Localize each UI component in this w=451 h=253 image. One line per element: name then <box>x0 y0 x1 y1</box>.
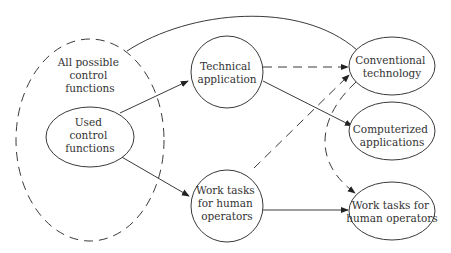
technical-application-label: Technical application <box>197 60 256 85</box>
edge-worktasks-to-conventional <box>254 75 349 168</box>
node-work-tasks-middle: Work tasks for human operators <box>191 170 263 242</box>
node-conventional-technology: Conventional technology <box>349 37 435 95</box>
control-functions-diagram: All possible control functions Used cont… <box>0 0 451 253</box>
computerized-applications-label: Computerized applications <box>353 123 431 148</box>
conventional-technology-label: Conventional technology <box>355 54 429 79</box>
node-technical-application: Technical application <box>191 36 263 108</box>
work-tasks-right-label: Work tasks for human operators <box>346 199 437 224</box>
edge-used-to-technical <box>120 81 188 113</box>
node-work-tasks-right: Work tasks for human operators <box>346 182 437 240</box>
work-tasks-middle-label: Work tasks for human operators <box>196 184 258 222</box>
node-used-control-functions: Used control functions <box>46 107 134 167</box>
outer-set-label: All possible control functions <box>57 56 122 94</box>
node-computerized-applications: Computerized applications <box>349 102 435 160</box>
edge-technical-to-computerized <box>263 81 352 126</box>
